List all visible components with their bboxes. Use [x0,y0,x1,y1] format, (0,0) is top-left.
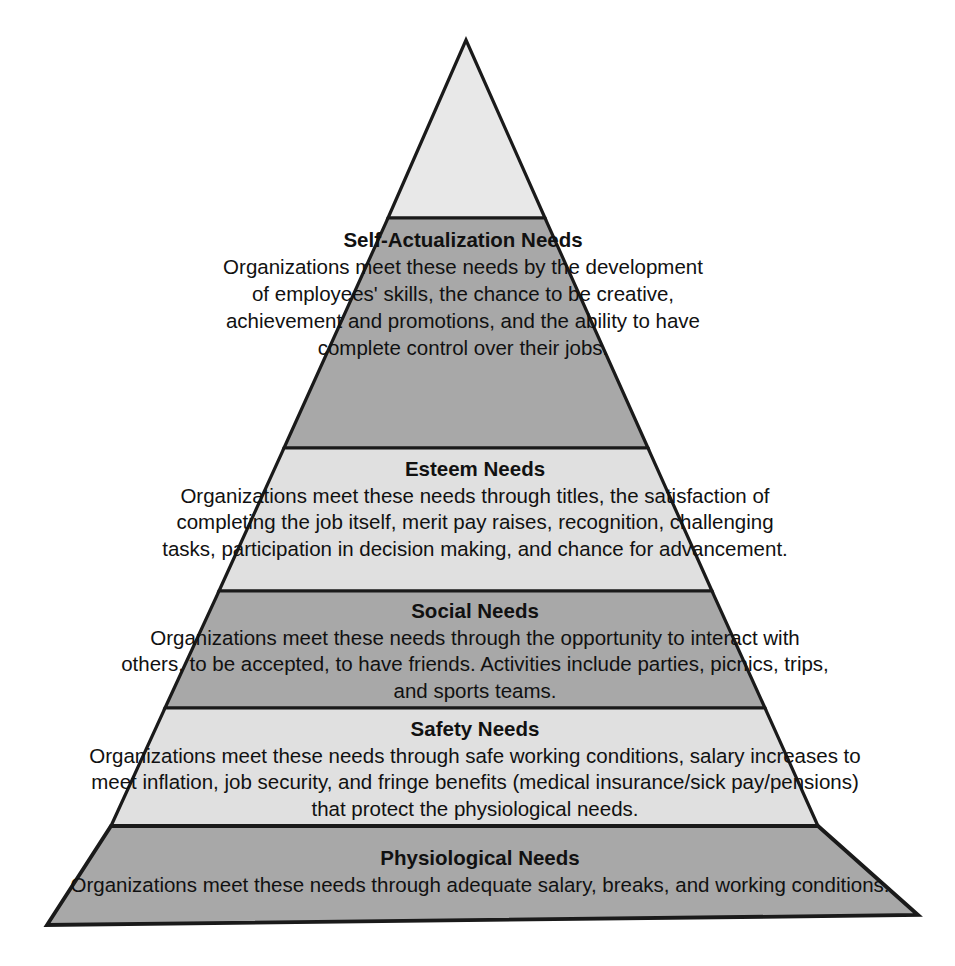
tier-description-social: Organizations meet these needs through t… [120,625,830,705]
pyramid-tier-apex [388,40,545,218]
tier-title-safety: Safety Needs [75,716,875,743]
tier-text-safety: Safety Needs Organizations meet these ne… [75,716,875,823]
tier-text-esteem: Esteem Needs Organizations meet these ne… [150,456,800,563]
tier-text-social: Social Needs Organizations meet these ne… [120,598,830,705]
tier-description-physiological: Organizations meet these needs through a… [60,872,900,899]
tier-title-esteem: Esteem Needs [150,456,800,483]
tier-description-self-actualization: Organizations meet these needs by the de… [223,253,703,361]
maslow-pyramid-diagram: Self-Actualization Needs Organizations m… [0,0,955,966]
tier-description-esteem: Organizations meet these needs through t… [150,483,800,563]
tier-title-physiological: Physiological Needs [60,845,900,872]
tier-title-social: Social Needs [120,598,830,625]
tier-text-physiological: Physiological Needs Organizations meet t… [60,845,900,898]
tier-title-self-actualization: Self-Actualization Needs [223,226,703,253]
tier-text-self-actualization: Self-Actualization Needs Organizations m… [223,226,703,361]
tier-description-safety: Organizations meet these needs through s… [75,743,875,823]
